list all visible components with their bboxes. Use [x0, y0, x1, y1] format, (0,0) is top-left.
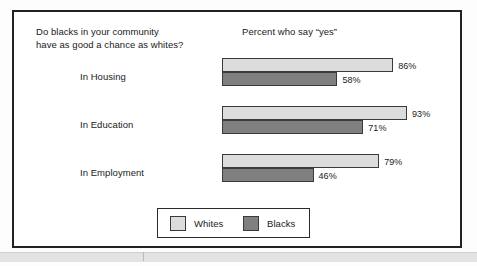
bar-whites	[222, 106, 407, 120]
chart-frame: Do blacks in your community have as good…	[12, 10, 462, 248]
bar-blacks	[222, 120, 363, 134]
bar-whites	[222, 58, 393, 72]
bar-value-label: 79%	[384, 157, 402, 167]
legend-item-whites: Whites	[170, 215, 223, 232]
bar-blacks	[222, 168, 314, 182]
bar-whites	[222, 154, 379, 168]
category-label: In Employment	[80, 167, 144, 178]
legend-label: Whites	[194, 218, 223, 229]
bar-value-label: 71%	[368, 123, 386, 133]
bar-value-label: 46%	[319, 171, 337, 181]
legend-swatch-whites	[170, 216, 186, 231]
scan-artifact-band	[0, 252, 477, 262]
chart-legend: WhitesBlacks	[157, 208, 310, 238]
bar-group: In Employment79%46%	[14, 154, 460, 182]
bar-group: In Education93%71%	[14, 106, 460, 134]
category-label: In Housing	[80, 71, 126, 82]
legend-swatch-blacks	[243, 216, 259, 231]
legend-item-blacks: Blacks	[243, 215, 295, 232]
legend-label: Blacks	[267, 218, 295, 229]
bar-group: In Housing86%58%	[14, 58, 460, 86]
bar-value-label: 58%	[342, 75, 360, 85]
scan-artifact-tick	[143, 252, 144, 261]
bar-value-label: 93%	[412, 109, 430, 119]
bar-value-label: 86%	[398, 61, 416, 71]
bar-blacks	[222, 72, 337, 86]
category-label: In Education	[80, 119, 133, 130]
